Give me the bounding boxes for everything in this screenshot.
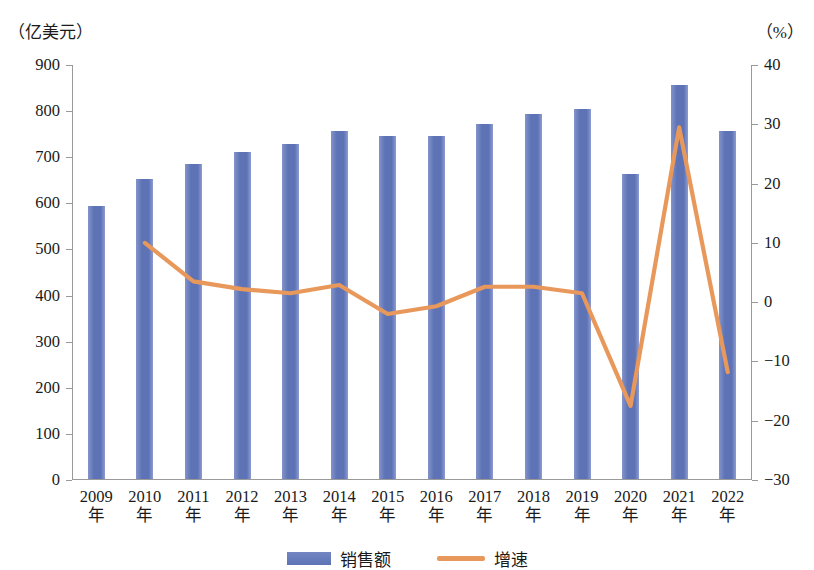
x-axis-label-year: 2013 — [274, 487, 307, 506]
x-axis-label: 2020年 — [614, 487, 647, 526]
right-tick-label: −10 — [764, 353, 790, 370]
right-tick-mark — [752, 421, 758, 422]
x-axis-label-suffix: 年 — [663, 506, 696, 525]
x-axis-label: 2014年 — [323, 487, 356, 526]
x-axis-label-suffix: 年 — [274, 506, 307, 525]
x-axis-label-year: 2012 — [226, 487, 259, 506]
x-axis-label-year: 2010 — [128, 487, 161, 506]
x-axis-label-suffix: 年 — [420, 506, 453, 525]
left-tick-label: 700 — [35, 149, 60, 166]
right-tick-label: −20 — [764, 412, 790, 429]
left-tick-label: 100 — [35, 426, 60, 443]
right-tick-mark — [752, 124, 758, 125]
chart-container: （亿美元） （%） 0100200300400500600700800900 −… — [0, 0, 814, 570]
x-axis-label-year: 2018 — [517, 487, 550, 506]
legend-item[interactable]: 增速 — [437, 546, 528, 570]
x-axis-label-suffix: 年 — [323, 506, 356, 525]
x-axis-label-suffix: 年 — [614, 506, 647, 525]
x-axis-label: 2010年 — [128, 487, 161, 526]
legend-line-swatch-icon — [437, 556, 485, 561]
right-tick-label: 20 — [764, 175, 781, 192]
legend-label: 销售额 — [340, 546, 391, 570]
plot-area: 0100200300400500600700800900 −30−20−1001… — [72, 65, 752, 480]
right-tick-mark — [752, 65, 758, 66]
right-tick-label: 10 — [764, 235, 781, 252]
x-axis-label-suffix: 年 — [371, 506, 404, 525]
x-axis-labels: 2009年2010年2011年2012年2013年2014年2015年2016年… — [72, 487, 752, 543]
legend-item[interactable]: 销售额 — [287, 546, 391, 570]
x-axis-label: 2011年 — [177, 487, 209, 526]
x-axis-label-suffix: 年 — [517, 506, 550, 525]
right-tick-mark — [752, 243, 758, 244]
x-axis-label-suffix: 年 — [80, 506, 113, 525]
x-axis-label-year: 2020 — [614, 487, 647, 506]
x-axis-label-suffix: 年 — [226, 506, 259, 525]
left-tick-mark — [66, 480, 72, 481]
right-tick-label: 40 — [764, 57, 781, 74]
left-tick-label: 200 — [35, 380, 60, 397]
x-axis-label-year: 2011 — [177, 487, 209, 506]
x-axis-label: 2012年 — [226, 487, 259, 526]
x-axis-label-suffix: 年 — [177, 506, 209, 525]
legend-label: 增速 — [494, 546, 528, 570]
left-tick-label: 400 — [35, 287, 60, 304]
right-axis-unit-label: （%） — [756, 18, 804, 43]
legend-bar-swatch-icon — [287, 552, 331, 565]
x-axis-label-suffix: 年 — [566, 506, 599, 525]
left-tick-label: 300 — [35, 333, 60, 350]
right-tick-mark — [752, 302, 758, 303]
right-tick-label: 0 — [764, 294, 772, 311]
x-axis-label-suffix: 年 — [711, 506, 744, 525]
right-tick-label: −30 — [764, 472, 790, 489]
right-tick-mark — [752, 480, 758, 481]
left-tick-label: 500 — [35, 241, 60, 258]
x-axis-label: 2019年 — [566, 487, 599, 526]
line-series-增速 — [72, 65, 752, 480]
x-axis-label: 2015年 — [371, 487, 404, 526]
x-axis-label: 2009年 — [80, 487, 113, 526]
x-axis-label: 2013年 — [274, 487, 307, 526]
x-axis-label-year: 2009 — [80, 487, 113, 506]
right-tick-label: 30 — [764, 116, 781, 133]
left-tick-label: 800 — [35, 103, 60, 120]
x-axis-label-year: 2019 — [566, 487, 599, 506]
x-axis-label-year: 2016 — [420, 487, 453, 506]
left-tick-label: 600 — [35, 195, 60, 212]
x-axis-label: 2021年 — [663, 487, 696, 526]
x-axis-label-year: 2015 — [371, 487, 404, 506]
left-axis-unit-label: （亿美元） — [8, 18, 93, 43]
x-axis-label-year: 2021 — [663, 487, 696, 506]
right-tick-mark — [752, 361, 758, 362]
x-axis-label: 2022年 — [711, 487, 744, 526]
growth-line-path — [145, 127, 728, 406]
x-axis-label-suffix: 年 — [468, 506, 501, 525]
left-tick-label: 900 — [35, 57, 60, 74]
x-axis-label-year: 2014 — [323, 487, 356, 506]
x-axis-label: 2016年 — [420, 487, 453, 526]
x-axis-label-year: 2017 — [468, 487, 501, 506]
x-axis-label-year: 2022 — [711, 487, 744, 506]
left-tick-label: 0 — [52, 472, 60, 489]
x-axis-label: 2018年 — [517, 487, 550, 526]
chart-legend: 销售额增速 — [0, 546, 814, 570]
right-tick-mark — [752, 184, 758, 185]
x-axis-label: 2017年 — [468, 487, 501, 526]
x-axis-label-suffix: 年 — [128, 506, 161, 525]
